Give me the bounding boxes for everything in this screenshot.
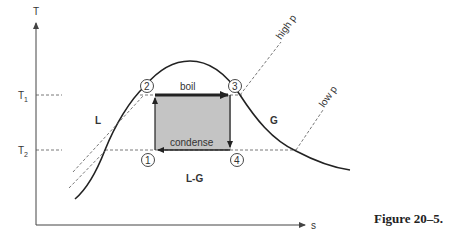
low-pressure-isobar xyxy=(296,110,323,150)
state-point-3: 3 xyxy=(229,80,242,93)
t-s-diagram: T s T1 T2 high p low p boil condense L G… xyxy=(0,0,463,247)
x-axis-label: s xyxy=(311,220,316,231)
figure-caption: Figure 20–5. xyxy=(374,211,443,226)
high-pressure-isobar xyxy=(240,42,281,95)
liquid-isobar-high xyxy=(73,96,143,172)
y-axis-label: T xyxy=(33,6,39,17)
gas-region-label: G xyxy=(270,115,278,126)
mixture-region-label: L-G xyxy=(186,173,203,184)
svg-text:4: 4 xyxy=(234,155,240,166)
svg-text:1: 1 xyxy=(145,155,151,166)
low-pressure-label: low p xyxy=(317,83,340,109)
state-point-4: 4 xyxy=(231,154,244,167)
state-point-2: 2 xyxy=(141,80,154,93)
t2-subscript: 2 xyxy=(24,151,28,158)
condense-label: condense xyxy=(170,137,214,148)
svg-text:3: 3 xyxy=(232,81,238,92)
high-pressure-label: high p xyxy=(274,12,299,41)
svg-text:2: 2 xyxy=(144,81,150,92)
liquid-region-label: L xyxy=(95,115,101,126)
boil-label: boil xyxy=(180,81,196,92)
t2-tick: T2 xyxy=(18,145,62,158)
t1-subscript: 1 xyxy=(24,96,28,103)
svg-text:T1: T1 xyxy=(18,90,28,103)
t1-tick: T1 xyxy=(18,90,62,103)
state-point-1: 1 xyxy=(142,154,155,167)
svg-text:T2: T2 xyxy=(18,145,28,158)
